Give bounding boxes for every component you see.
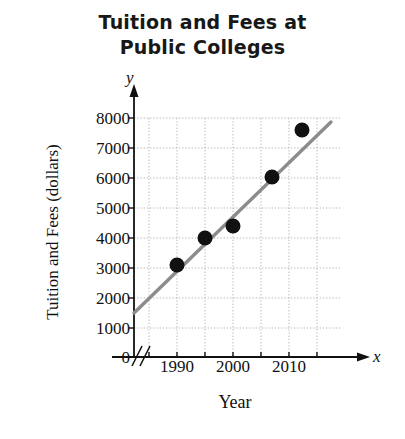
data-point bbox=[198, 231, 213, 246]
y-tick-label-5000: 5000 bbox=[68, 200, 130, 217]
data-point bbox=[295, 123, 310, 138]
x-axis-title: Year bbox=[130, 392, 340, 413]
data-point bbox=[226, 219, 241, 234]
y-tick-label-2000: 2000 bbox=[68, 290, 130, 307]
y-tick-label-4000: 4000 bbox=[68, 230, 130, 247]
y-axis-title: Tuition and Fees (dollars) bbox=[43, 107, 63, 357]
data-point bbox=[170, 258, 185, 273]
y-tick-label-7000: 7000 bbox=[68, 140, 130, 157]
y-axis-letter: y bbox=[126, 68, 134, 88]
y-tick-label-3000: 3000 bbox=[68, 260, 130, 277]
y-tick-label-1000: 1000 bbox=[68, 320, 130, 337]
data-point bbox=[265, 170, 280, 185]
y-axis bbox=[130, 84, 139, 358]
x-tick-label-2010: 2010 bbox=[254, 358, 324, 376]
y-axis-tick-labels: 8000 7000 6000 5000 4000 3000 2000 1000 … bbox=[64, 0, 130, 439]
x-axis-letter: x bbox=[373, 347, 381, 367]
y-tick-label-8000: 8000 bbox=[68, 110, 130, 127]
y-tick-label-6000: 6000 bbox=[68, 170, 130, 187]
y-tick-label-0: 0 bbox=[68, 349, 130, 366]
chart-screenshot: Tuition and Fees at Public Colleges bbox=[0, 0, 405, 439]
